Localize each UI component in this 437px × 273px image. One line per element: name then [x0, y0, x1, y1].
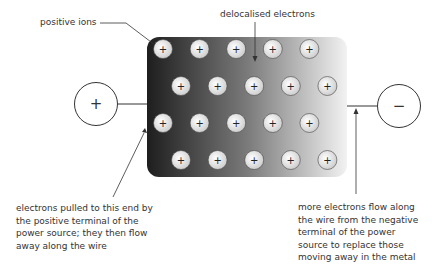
ion-plus-sign: + [323, 155, 331, 166]
ion-plus-sign: + [159, 118, 167, 129]
ion-plus-sign: + [269, 118, 277, 129]
delocalised-electrons-label: delocalised electrons [220, 8, 315, 21]
ion-plus-sign: + [159, 44, 167, 55]
left-note-leader [113, 133, 144, 197]
left-note-arrowhead [142, 128, 147, 133]
ion-plus-sign: + [287, 81, 295, 92]
ion-plus-sign: + [195, 44, 203, 55]
ion-plus-sign: + [250, 155, 258, 166]
right-note-arrowhead [354, 108, 359, 114]
positive-ions-leader [100, 23, 155, 45]
ion-plus-sign: + [250, 81, 258, 92]
ion-plus-sign: + [323, 81, 331, 92]
negative-terminal-sign: − [393, 97, 406, 115]
ion-plus-sign: + [195, 118, 203, 129]
ion-plus-sign: + [287, 155, 295, 166]
positive-ions-label: positive ions [40, 16, 97, 29]
right-note: more electrons flow along the wire from … [298, 201, 418, 264]
ion-plus-sign: + [232, 118, 240, 129]
ion-plus-sign: + [305, 118, 313, 129]
ion-plus-sign: + [177, 81, 185, 92]
ion-plus-sign: + [305, 44, 313, 55]
ion-plus-sign: + [232, 44, 240, 55]
left-note: electrons pulled to this end by the posi… [16, 202, 153, 252]
ion-plus-sign: + [213, 155, 221, 166]
positive-terminal-sign: + [90, 95, 103, 113]
ion-plus-sign: + [213, 81, 221, 92]
ion-plus-sign: + [269, 44, 277, 55]
ion-plus-sign: + [177, 155, 185, 166]
